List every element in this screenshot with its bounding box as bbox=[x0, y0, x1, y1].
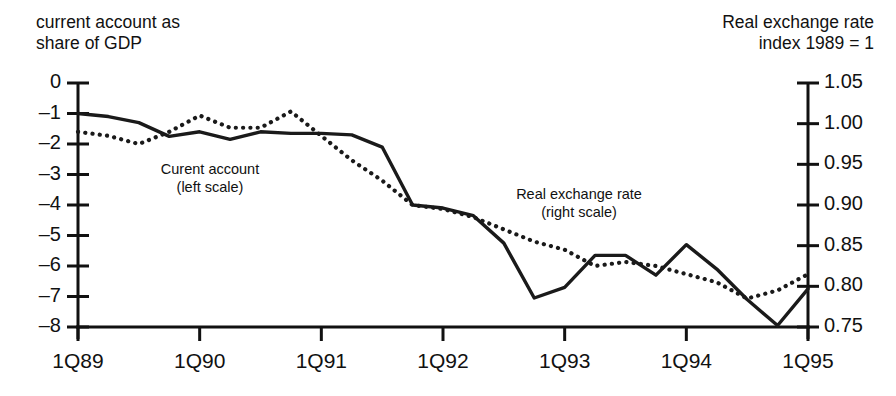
x-tick-label: 1Q93 bbox=[520, 349, 610, 373]
x-tick-label: 1Q91 bbox=[276, 349, 366, 373]
plot-area bbox=[0, 0, 896, 396]
x-tick-label: 1Q95 bbox=[763, 349, 853, 373]
left-tick-label: –3 bbox=[15, 162, 61, 185]
x-tick-label: 1Q94 bbox=[641, 349, 731, 373]
left-tick-label: –4 bbox=[15, 192, 61, 215]
x-tick-label: 1Q90 bbox=[155, 349, 245, 373]
left-tick-label: 0 bbox=[15, 70, 61, 93]
x-tick-label: 1Q89 bbox=[33, 349, 123, 373]
left-tick-label: –5 bbox=[15, 223, 61, 246]
left-tick-label: –8 bbox=[15, 314, 61, 337]
right-tick-label: 1.05 bbox=[824, 70, 894, 93]
left-tick-label: –6 bbox=[15, 253, 61, 276]
annotation-real-exchange: Real exchange rate (right scale) bbox=[474, 185, 684, 221]
axes-group bbox=[67, 82, 819, 341]
annotation-current-account: Curent account (left scale) bbox=[110, 160, 310, 196]
right-tick-label: 1.00 bbox=[824, 111, 894, 134]
series-line-1 bbox=[78, 111, 808, 298]
series-group bbox=[78, 111, 808, 325]
right-tick-label: 0.75 bbox=[824, 314, 894, 337]
chart-figure: current account as share of GDP Real exc… bbox=[0, 0, 896, 396]
left-tick-label: –7 bbox=[15, 284, 61, 307]
right-tick-label: 0.85 bbox=[824, 233, 894, 256]
left-tick-label: –1 bbox=[15, 101, 61, 124]
right-tick-label: 0.90 bbox=[824, 192, 894, 215]
right-tick-label: 0.80 bbox=[824, 273, 894, 296]
right-tick-label: 0.95 bbox=[824, 151, 894, 174]
left-tick-label: –2 bbox=[15, 131, 61, 154]
series-line-0 bbox=[78, 114, 808, 326]
x-tick-label: 1Q92 bbox=[398, 349, 488, 373]
